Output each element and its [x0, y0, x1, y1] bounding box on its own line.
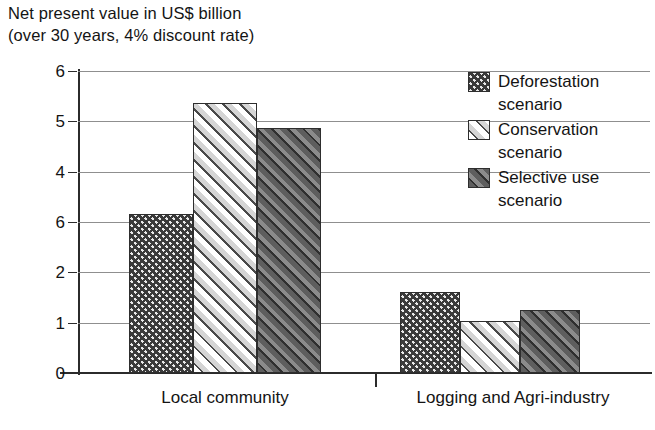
- bar-local-community-selective-use: [257, 128, 321, 373]
- legend-label-conservation-line-2: scenario: [498, 141, 655, 164]
- plot-area: 6 5 4 6 2 1 0: [78, 71, 650, 373]
- tick-mark-3: [68, 222, 77, 223]
- bar-logging-agri-industry-selective-use: [520, 310, 580, 373]
- y-tick-label-0: 0: [56, 365, 65, 382]
- y-tick-label-4: 4: [56, 163, 65, 180]
- legend-label-selective-use: Selective use scenario: [498, 166, 655, 212]
- legend-label-selective-use-line-1: Selective use: [498, 168, 599, 187]
- chart-title-line-2: (over 30 years, 4% discount rate): [8, 24, 408, 46]
- y-tick-label-5: 5: [56, 113, 65, 130]
- y-tick-label-2: 2: [56, 264, 65, 281]
- bar-logging-agri-industry-deforestation: [400, 292, 460, 374]
- x-category-label-local-community: Local community: [140, 388, 310, 408]
- legend-swatch-selective-use-icon: [468, 168, 490, 188]
- tick-mark-0: [68, 373, 77, 374]
- y-tick-label-3: 6: [56, 214, 65, 231]
- tick-mark-2: [68, 272, 77, 273]
- bar-local-community-conservation: [193, 103, 257, 373]
- legend-swatch-conservation-icon: [468, 120, 490, 140]
- legend-label-selective-use-line-2: scenario: [498, 189, 655, 212]
- bar-logging-agri-industry-conservation: [460, 321, 520, 373]
- bar-local-community-deforestation: [129, 214, 193, 373]
- tick-mark-5: [68, 121, 77, 122]
- tick-mark-1: [68, 323, 77, 324]
- tick-mark-4: [68, 172, 77, 173]
- x-category-label-logging-agri-industry: Logging and Agri-industry: [388, 388, 638, 408]
- chart-title: Net present value in US$ billion (over 3…: [8, 2, 408, 46]
- chart-title-line-1: Net present value in US$ billion: [8, 4, 241, 22]
- bar-chart: Net present value in US$ billion (over 3…: [0, 0, 655, 430]
- tick-mark-6: [68, 71, 77, 72]
- legend-label-conservation-line-1: Conservation: [498, 120, 598, 139]
- x-axis-group-separator-tick: [375, 374, 377, 387]
- legend-label-conservation: Conservation scenario: [498, 118, 655, 164]
- y-tick-label-6: 6: [56, 63, 65, 80]
- y-tick-label-1: 1: [56, 314, 65, 331]
- legend-label-deforestation: Deforestation scenario: [498, 70, 655, 116]
- legend-label-deforestation-line-1: Deforestation: [498, 72, 599, 91]
- legend-label-deforestation-line-2: scenario: [498, 93, 655, 116]
- legend-swatch-deforestation-icon: [468, 72, 490, 92]
